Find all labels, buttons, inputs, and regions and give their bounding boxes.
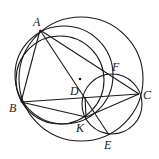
point-labels: ABCDFKE bbox=[9, 15, 152, 152]
segment-AE bbox=[40, 30, 109, 135]
dots bbox=[79, 78, 82, 81]
segment-BC bbox=[21, 94, 139, 102]
label-F: F bbox=[111, 60, 120, 74]
label-C: C bbox=[143, 88, 152, 102]
label-K: K bbox=[75, 121, 85, 135]
label-D: D bbox=[69, 84, 79, 98]
segment-AB bbox=[21, 30, 40, 102]
label-B: B bbox=[9, 101, 17, 115]
label-A: A bbox=[32, 15, 41, 29]
circle-ABFK bbox=[15, 26, 113, 124]
geometry-figure: ABCDFKE bbox=[0, 0, 159, 159]
center-dot bbox=[79, 78, 82, 81]
label-E: E bbox=[103, 138, 112, 152]
